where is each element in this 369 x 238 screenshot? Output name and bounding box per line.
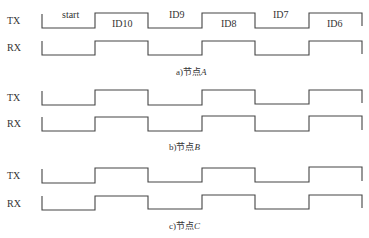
- rx-label: RX: [7, 42, 22, 53]
- timing-diagram: TX RX start ID10 ID9 ID8 ID7 ID6 a)节点A T…: [0, 0, 369, 238]
- tx-waveform: [42, 13, 362, 28]
- id10-bit-label: ID10: [112, 18, 133, 29]
- id9-bit-label: ID9: [169, 9, 185, 20]
- id6-bit-label: ID6: [327, 18, 343, 29]
- caption-prefix: b)节点: [169, 142, 195, 152]
- caption-node: A: [200, 67, 207, 77]
- panel-node-b: TX RX b)节点B: [7, 90, 362, 152]
- caption-node-c: c)节点C: [169, 221, 201, 231]
- rx-waveform: [42, 195, 362, 210]
- tx-label: TX: [7, 170, 21, 181]
- caption-node: C: [194, 221, 201, 231]
- caption-node-a: a)节点A: [176, 67, 207, 77]
- rx-waveform: [42, 116, 362, 131]
- rx-waveform: [42, 41, 362, 55]
- caption-prefix: c)节点: [169, 221, 194, 231]
- id8-bit-label: ID8: [221, 18, 237, 29]
- tx-label: TX: [7, 15, 21, 26]
- tx-waveform: [42, 90, 362, 105]
- caption-node: B: [195, 142, 201, 152]
- caption-node-b: b)节点B: [169, 142, 201, 152]
- rx-label: RX: [7, 198, 22, 209]
- caption-prefix: a)节点: [176, 67, 201, 77]
- tx-waveform: [42, 167, 362, 183]
- start-bit-label: start: [62, 9, 79, 20]
- panel-node-a: TX RX start ID10 ID9 ID8 ID7 ID6 a)节点A: [7, 9, 362, 77]
- panel-node-c: TX RX c)节点C: [7, 167, 362, 231]
- rx-label: RX: [7, 118, 22, 129]
- tx-label: TX: [7, 92, 21, 103]
- id7-bit-label: ID7: [273, 9, 289, 20]
